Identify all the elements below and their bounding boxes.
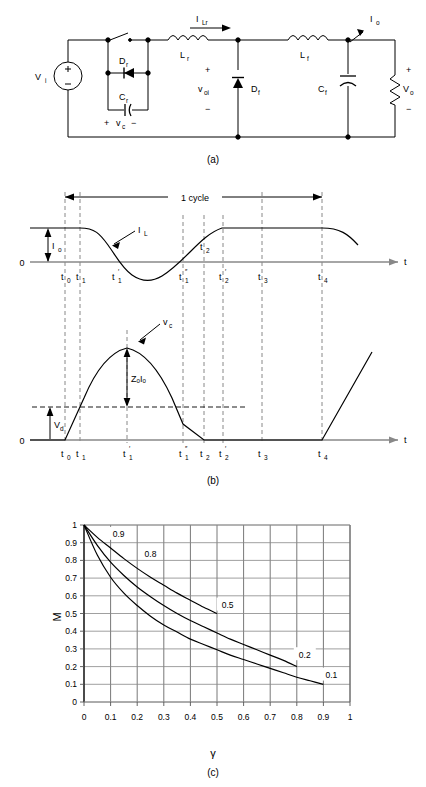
dr-label-sub: r <box>126 61 129 68</box>
label-t1-top-sub: 1 <box>82 277 86 284</box>
chart-curve <box>84 525 217 614</box>
inductor-lr <box>168 36 208 41</box>
ilr-label: I <box>196 14 199 24</box>
zoio-label: ZₒIₒ <box>131 374 146 384</box>
chart-y-tick-label: 1 <box>72 520 77 530</box>
label-t2-top-sub: 2 <box>206 247 210 254</box>
vc-label-sub: c <box>122 123 126 130</box>
label-t1pp-bot-sub: 1 <box>185 454 189 461</box>
cap-cf-plate2 <box>340 83 356 87</box>
vc-plus: + <box>104 118 109 128</box>
diode-df-triangle <box>233 78 243 88</box>
io-arrow-head-down <box>45 253 52 262</box>
chart-x-tick-label: 0.3 <box>158 712 170 722</box>
label-t2-top: t <box>200 242 203 252</box>
axis-t-top-label: t <box>404 257 407 267</box>
chart-y-tick-label: 0.7 <box>65 573 77 583</box>
vc-pointer-shaft <box>140 324 160 340</box>
cycle-arrow-head-right <box>313 194 322 201</box>
vc-label: v <box>116 118 121 128</box>
io-label-sub: o <box>376 19 380 26</box>
chart-annotation-label: 0.2 <box>299 650 311 660</box>
label-t0-bot: t <box>61 449 64 459</box>
label-t1p-bot: t <box>123 449 126 459</box>
chart-x-tick-label: 0.8 <box>291 712 303 722</box>
vo-label-sub: o <box>410 89 414 96</box>
chart-y-tick-label: 0.9 <box>65 538 77 548</box>
chart-y-tick-label: 0.2 <box>65 662 77 672</box>
cf-label: C <box>318 84 325 94</box>
chart-y-tick-label: 0.5 <box>65 609 77 619</box>
df-label-sub: f <box>258 89 260 96</box>
label-t1p-bot-prime: ′ <box>129 445 131 452</box>
io-amplitude-label: I <box>52 241 55 251</box>
cf-label-sub: f <box>325 89 327 96</box>
chart-x-tick-label: 0.7 <box>264 712 276 722</box>
chart-x-tick-label: 0.9 <box>317 712 329 722</box>
chart-curve-annotations: 0.90.80.50.20.1 <box>108 527 343 681</box>
il-trace-label: I <box>138 225 141 235</box>
vd-measure-arrow <box>47 407 54 439</box>
label-t2p-bot: t <box>219 449 222 459</box>
lr-label: L <box>180 50 185 60</box>
node-mid-bottom <box>236 135 240 139</box>
panel-b-waveforms: 1 cycle t 0 I o I L t 0 t 1 t 1 ′ <box>19 190 407 486</box>
voi-label: v <box>198 84 203 94</box>
chart-curves <box>84 525 323 684</box>
lf-label-sub: f <box>307 55 309 62</box>
label-t2p-top: t <box>219 272 222 282</box>
switch-blade <box>110 33 128 40</box>
label-t3-bot: t <box>258 449 261 459</box>
vc-minus: − <box>131 118 136 128</box>
node-cf-bottom <box>346 135 350 139</box>
chart-axes <box>80 525 350 706</box>
label-t1pp-top-prime: ″ <box>185 268 188 275</box>
chart-x-tick-label: 0.2 <box>131 712 143 722</box>
panel-c-caption: (c) <box>207 767 219 778</box>
zoio-measure-arrow <box>124 348 131 407</box>
inductor-lf <box>288 36 328 41</box>
vc-trace-sub: c <box>169 322 173 329</box>
df-label: D <box>251 84 258 94</box>
label-t4-bot: t <box>318 449 321 459</box>
label-t1-bot: t <box>76 449 79 459</box>
voi-plus: + <box>205 65 210 75</box>
label-t2-bot-sub: 2 <box>206 454 210 461</box>
panel-c-chart: 00.10.20.30.40.50.60.70.80.9100.10.20.30… <box>51 520 353 778</box>
cr-label-sub: r <box>126 97 129 104</box>
label-t2p-bot-sub: 2 <box>225 454 229 461</box>
label-t4-bot-sub: 4 <box>324 454 328 461</box>
chart-annotation-label: 0.5 <box>222 600 234 610</box>
vd-label-sub: d <box>60 425 64 432</box>
panel-a-caption: (a) <box>207 154 219 165</box>
label-t0-bot-sub: 0 <box>67 454 71 461</box>
chart-y-tick-label: 0.1 <box>65 679 77 689</box>
voi-label-sub: oi <box>204 89 209 96</box>
chart-x-tick-label: 1 <box>348 712 353 722</box>
label-t0-top: t <box>61 272 64 282</box>
label-t2p-top-prime: ′ <box>225 268 227 275</box>
chart-x-tick-label: 0.4 <box>184 712 196 722</box>
vc-trace-label: v <box>163 317 168 327</box>
label-t1-top: t <box>76 272 79 282</box>
io-label: I <box>370 14 373 24</box>
source-label: V <box>35 72 41 82</box>
chart-y-tick-label: 0.8 <box>65 555 77 565</box>
label-t2p-top-sub: 2 <box>225 277 229 284</box>
chart-annotation-label: 0.9 <box>113 529 125 539</box>
voi-minus: − <box>205 104 210 114</box>
label-t1pp-top-sub: 1 <box>185 277 189 284</box>
io-arrow-head-up <box>45 228 52 237</box>
label-t2p-bot-prime: ′ <box>225 445 227 452</box>
lf-label: L <box>300 50 305 60</box>
label-t1p-top-prime: ′ <box>118 268 120 275</box>
label-t1p-top-sub: 1 <box>118 277 122 284</box>
label-t3-bot-sub: 3 <box>264 454 268 461</box>
label-t1p-bot-sub: 1 <box>129 454 133 461</box>
chart-y-tick-label: 0 <box>72 697 77 707</box>
label-t1p-top: t <box>112 272 115 282</box>
dr-label: D <box>119 56 126 66</box>
chart-annotation-label: 0.8 <box>145 549 157 559</box>
bottom-time-labels: t 0 t 1 t 1 ′ t 1 ″ t 2 t 2 ′ t 3 t 4 <box>61 445 328 461</box>
zoio-arrow-head-down <box>124 398 131 407</box>
